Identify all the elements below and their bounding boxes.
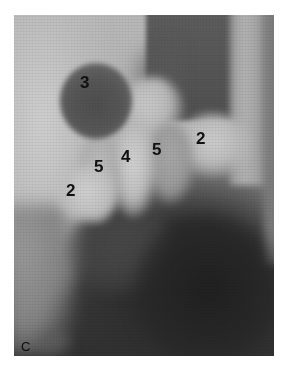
label-3: 3 [80,74,89,91]
label-2-right: 2 [196,130,205,147]
label-4: 4 [121,148,130,165]
micrograph-photo [14,15,274,356]
photo-grain [14,15,274,356]
label-5-right: 5 [152,141,161,158]
label-2-left: 2 [66,182,75,199]
panel-label: C [21,340,30,353]
label-5-left: 5 [94,158,103,175]
